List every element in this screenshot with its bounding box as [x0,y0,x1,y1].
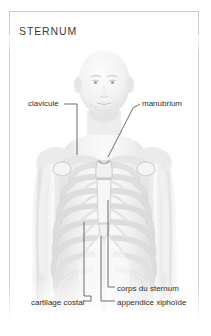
label-corps-du-sternum: corps du sternum [117,285,179,293]
label-manubrium: manubrium [142,100,182,108]
anatomy-figure-page: STERNUM [0,0,211,336]
label-appendice-xiphoide: appendice xiphoïde [117,299,186,307]
label-cartilage-costal: cartilage costal [31,299,84,307]
label-clavicule: clavicule [28,100,59,108]
anatomy-illustration [9,11,199,324]
